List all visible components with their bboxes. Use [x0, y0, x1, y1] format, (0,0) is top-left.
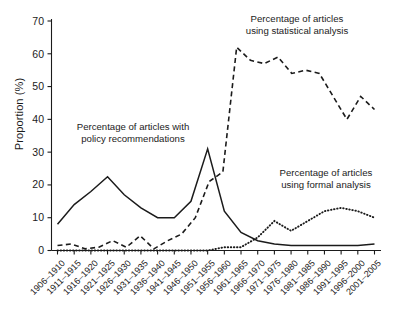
series-line-formal-analysis [58, 208, 375, 251]
annotation-line: using formal analysis [256, 179, 396, 191]
y-tick-marks [48, 21, 52, 251]
annotation-line: Percentage of articles [227, 13, 367, 25]
annotation-line: policy recommendations [58, 133, 208, 145]
annotation-line: Percentage of articles with [58, 121, 208, 133]
annotation-policy-recommendations: Percentage of articles with policy recom… [58, 121, 208, 144]
annotation-statistical-analysis: Percentage of articles using statistical… [227, 13, 367, 36]
annotation-line: using statistical analysis [227, 25, 367, 37]
annotation-formal-analysis: Percentage of articles using formal anal… [256, 167, 396, 190]
chart-container: Proportion (%) 70 60 50 40 30 20 10 0 Pe… [0, 0, 411, 313]
series-line-statistical-analysis [58, 47, 375, 249]
series-line-policy-recommendations [58, 149, 375, 246]
annotation-line: Percentage of articles [256, 167, 396, 179]
